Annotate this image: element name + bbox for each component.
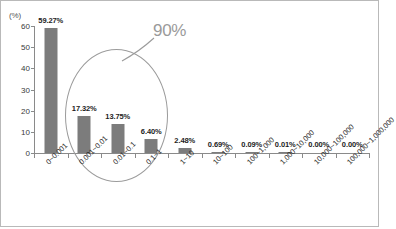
y-axis-unit-label: (%) <box>9 11 21 20</box>
bar[interactable] <box>44 28 57 153</box>
x-axis-tick-mark <box>135 153 136 158</box>
bar-group[interactable]: 0.01% <box>269 26 303 153</box>
x-axis-tick-mark <box>336 153 337 158</box>
bar-group[interactable]: 59.27% <box>34 26 68 153</box>
bar-group[interactable]: 6.40% <box>135 26 169 153</box>
y-axis-tick-label: 20 <box>21 106 30 115</box>
x-axis-tick-mark <box>68 153 69 158</box>
x-axis-tick-mark <box>34 153 35 158</box>
bar-group[interactable]: 17.32% <box>68 26 102 153</box>
bar-group[interactable]: 0.09% <box>235 26 269 153</box>
bar-group[interactable]: 0.69% <box>202 26 236 153</box>
y-axis-tick-label: 60 <box>21 22 30 31</box>
y-axis-tick-label: 40 <box>21 64 30 73</box>
plot-area: 0102030405060 59.27%17.32%13.75%6.40%2.4… <box>34 26 369 153</box>
bar-group[interactable]: 2.48% <box>168 26 202 153</box>
x-axis-tick-mark <box>202 153 203 158</box>
bar-group[interactable]: 13.75% <box>101 26 135 153</box>
y-axis-tick-label: 0 <box>26 149 30 158</box>
bar-value-label: 6.40% <box>141 127 162 136</box>
bar-value-label: 2.48% <box>174 136 195 145</box>
x-axis-tick-mark <box>269 153 270 158</box>
x-axis-tick-mark <box>235 153 236 158</box>
y-axis-tick-label: 30 <box>21 85 30 94</box>
chart-container: (%) 0102030405060 59.27%17.32%13.75%6.40… <box>0 0 379 227</box>
x-axis-tick-mark <box>168 153 169 158</box>
annotation-callout-label: 90% <box>153 21 186 41</box>
y-axis-tick-label: 50 <box>21 43 30 52</box>
bar-value-label: 13.75% <box>105 112 130 121</box>
x-axis-tick-mark <box>302 153 303 158</box>
x-axis-tick-mark <box>101 153 102 158</box>
y-axis-tick-label: 10 <box>21 127 30 136</box>
x-axis-tick-mark <box>369 153 370 158</box>
bar-value-label: 17.32% <box>72 104 97 113</box>
bar-value-label: 59.27% <box>38 16 63 25</box>
